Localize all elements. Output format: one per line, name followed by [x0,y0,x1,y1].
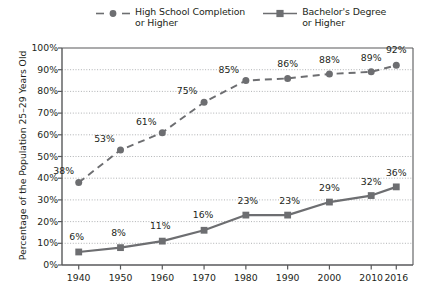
data-label-bachelors: 32% [361,175,382,186]
data-label-bachelors: 36% [386,166,407,177]
data-label-high-school: 53% [94,132,115,143]
data-label-high-school: 86% [277,58,298,69]
data-label-bachelors: 16% [193,209,214,220]
data-label-high-school: 61% [136,115,157,126]
data-label-high-school: 75% [177,85,198,96]
data-label-bachelors: 8% [111,226,126,237]
data-label-bachelors: 29% [319,182,340,193]
data-label-high-school: 38% [53,164,74,175]
data-label-high-school: 85% [219,63,240,74]
data-label-high-school: 88% [319,54,340,65]
data-point-labels: 38%53%61%75%85%86%88%89%92%6%8%11%16%23%… [0,0,427,298]
data-label-bachelors: 11% [150,220,171,231]
data-label-bachelors: 23% [279,195,300,206]
data-label-high-school: 92% [386,44,407,55]
data-label-high-school: 89% [361,51,382,62]
data-label-bachelors: 23% [238,195,259,206]
chart-container: High School Completion or Higher Bachelo… [0,0,427,298]
data-label-bachelors: 6% [69,230,84,241]
